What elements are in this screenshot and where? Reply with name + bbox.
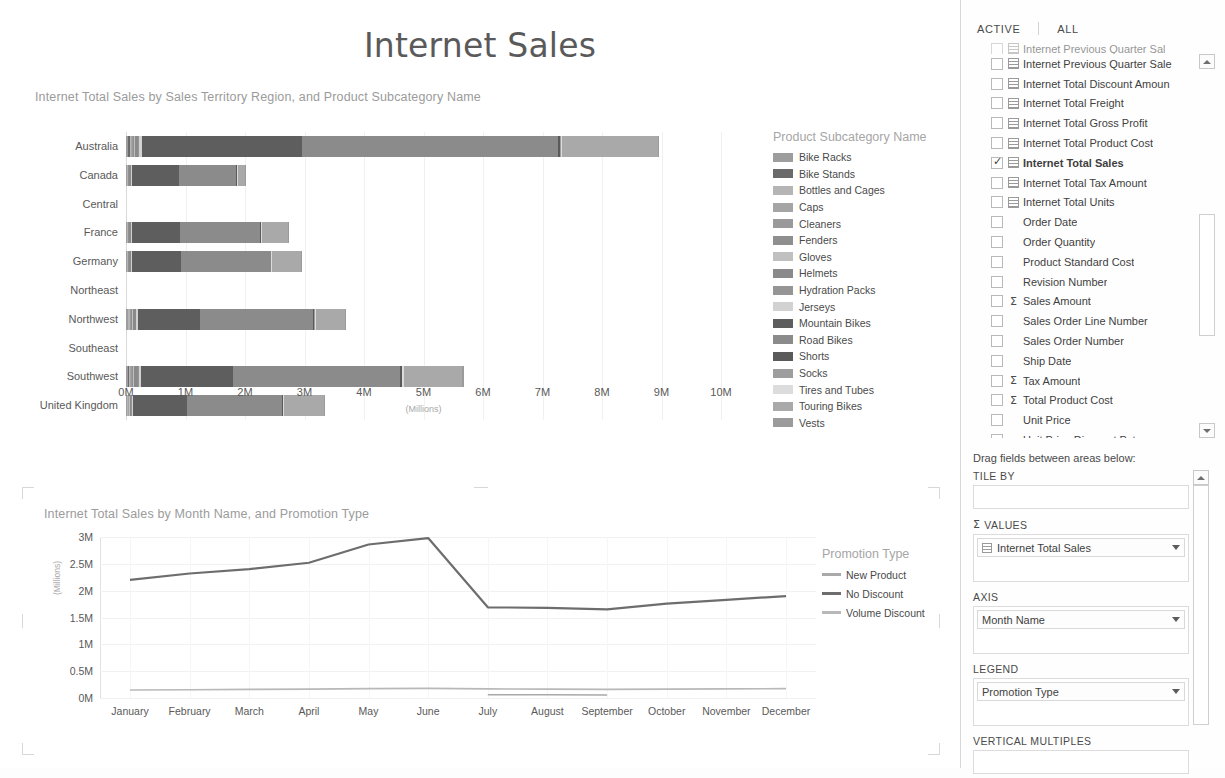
field-list-item[interactable]: Internet Total Discount Amoun bbox=[991, 74, 1196, 94]
field-list-item[interactable]: Internet Previous Quarter Sal bbox=[991, 43, 1196, 54]
line-chart-plot-area[interactable]: 3M2.5M2M1.5M1M0.5M0MJanuaryFebruaryMarch… bbox=[100, 537, 816, 698]
bar-chart-segment[interactable] bbox=[132, 251, 181, 272]
selection-frame-handle-top[interactable] bbox=[474, 487, 488, 488]
bar-chart-segment[interactable] bbox=[272, 251, 301, 272]
legend-item[interactable]: Volume Discount bbox=[822, 603, 940, 622]
scroll-down-arrow-icon[interactable] bbox=[1199, 423, 1215, 438]
checkbox-icon[interactable] bbox=[991, 295, 1003, 307]
legend-item[interactable]: Bike Stands bbox=[773, 166, 953, 183]
chevron-down-icon[interactable] bbox=[1172, 617, 1180, 622]
bar-chart-row[interactable]: Australia bbox=[126, 136, 721, 157]
bar-chart-segment[interactable] bbox=[233, 366, 400, 387]
field-list-item[interactable]: Internet Total Units bbox=[991, 193, 1196, 213]
line-chart-series-path[interactable] bbox=[130, 688, 786, 690]
legend-item[interactable]: Socks bbox=[773, 365, 953, 382]
checkbox-icon[interactable] bbox=[991, 216, 1003, 228]
field-list-item[interactable]: Internet Previous Quarter Sale bbox=[991, 54, 1196, 74]
bar-chart-segment[interactable] bbox=[262, 222, 288, 243]
legend-item[interactable]: Helmets bbox=[773, 265, 953, 282]
bar-chart-segment[interactable] bbox=[179, 165, 236, 186]
bar-chart-row[interactable]: Northeast bbox=[126, 280, 721, 301]
bar-chart-segment[interactable] bbox=[404, 366, 462, 387]
chevron-down-icon[interactable] bbox=[1172, 545, 1180, 550]
bar-chart-segment[interactable] bbox=[658, 136, 659, 157]
legend-item[interactable]: Road Bikes bbox=[773, 332, 953, 349]
legend-item[interactable]: Shorts bbox=[773, 348, 953, 365]
field-list-item[interactable]: Sales Order Number bbox=[991, 331, 1196, 351]
line-chart-legend[interactable]: Promotion Type New ProductNo DiscountVol… bbox=[822, 547, 940, 622]
checkbox-icon[interactable] bbox=[991, 117, 1003, 129]
bar-chart-row[interactable]: France bbox=[126, 222, 721, 243]
bar-chart-segment[interactable] bbox=[180, 222, 260, 243]
field-list[interactable]: Internet Previous Quarter SalInternet Pr… bbox=[991, 43, 1196, 438]
checkbox-icon[interactable] bbox=[991, 335, 1003, 347]
checkbox-icon[interactable] bbox=[991, 58, 1003, 70]
field-pill[interactable]: Promotion Type bbox=[977, 682, 1185, 701]
bar-chart-segment[interactable] bbox=[142, 136, 303, 157]
bar-chart-segment[interactable] bbox=[301, 251, 302, 272]
legend-item[interactable]: Vests bbox=[773, 415, 953, 432]
drop-area-box[interactable]: Month Name bbox=[973, 606, 1189, 654]
bar-chart-row[interactable]: Southeast bbox=[126, 338, 721, 359]
legend-item[interactable]: Gloves bbox=[773, 249, 953, 266]
bar-chart-segment[interactable] bbox=[288, 222, 289, 243]
field-list-item[interactable]: Order Date bbox=[991, 212, 1196, 232]
line-chart-series-path[interactable] bbox=[130, 538, 786, 609]
legend-item[interactable]: Cleaners bbox=[773, 215, 953, 232]
legend-item[interactable]: Touring Bikes bbox=[773, 398, 953, 415]
chevron-down-icon[interactable] bbox=[1172, 689, 1180, 694]
legend-item[interactable]: Fenders bbox=[773, 232, 953, 249]
field-list-item[interactable]: Revision Number bbox=[991, 272, 1196, 292]
checkbox-icon[interactable] bbox=[991, 78, 1003, 90]
bar-chart-segment[interactable] bbox=[302, 136, 558, 157]
field-list-item[interactable]: Internet Total Freight bbox=[991, 94, 1196, 114]
field-list-item[interactable]: Internet Total Sales bbox=[991, 153, 1196, 173]
field-list-item[interactable]: ΣTotal Product Cost bbox=[991, 391, 1196, 411]
tab-active[interactable]: ACTIVE bbox=[973, 23, 1024, 35]
checkbox-icon[interactable] bbox=[991, 97, 1003, 109]
bar-chart-legend-items[interactable]: Bike RacksBike StandsBottles and CagesCa… bbox=[773, 149, 953, 431]
checkbox-icon[interactable] bbox=[991, 43, 1003, 54]
legend-item[interactable]: Bike Racks bbox=[773, 149, 953, 166]
bar-chart-row[interactable]: Central bbox=[126, 194, 721, 215]
bar-chart-segment[interactable] bbox=[181, 251, 270, 272]
checkbox-icon[interactable] bbox=[991, 196, 1003, 208]
bar-chart-segment[interactable] bbox=[238, 165, 246, 186]
field-list-item[interactable]: ΣTax Amount bbox=[991, 371, 1196, 391]
checkbox-icon[interactable] bbox=[991, 137, 1003, 149]
scroll-up-arrow-icon[interactable] bbox=[1199, 54, 1215, 69]
legend-item[interactable]: New Product bbox=[822, 565, 940, 584]
bar-chart-row[interactable]: Canada bbox=[126, 165, 721, 186]
bar-chart-plot-area[interactable]: AustraliaCanadaCentralFranceGermanyNorth… bbox=[126, 132, 721, 420]
areas-scroll-up-arrow-icon[interactable] bbox=[1193, 470, 1209, 485]
field-list-item[interactable]: Internet Total Gross Profit bbox=[991, 113, 1196, 133]
line-chart-legend-items[interactable]: New ProductNo DiscountVolume Discount bbox=[822, 565, 940, 622]
field-list-item[interactable]: Ship Date bbox=[991, 351, 1196, 371]
checkbox-icon[interactable] bbox=[991, 256, 1003, 268]
bar-chart-legend[interactable]: Product Subcategory Name Bike RacksBike … bbox=[773, 130, 953, 431]
drop-area-box[interactable]: Internet Total Sales bbox=[973, 534, 1189, 582]
checkbox-icon[interactable] bbox=[991, 355, 1003, 367]
legend-item[interactable]: Hydration Packs bbox=[773, 282, 953, 299]
tab-all[interactable]: ALL bbox=[1053, 23, 1082, 35]
bar-chart-segment[interactable] bbox=[141, 366, 233, 387]
bar-chart-segment[interactable] bbox=[138, 309, 199, 330]
drop-area-box[interactable] bbox=[973, 750, 1189, 774]
field-list-item[interactable]: Internet Total Tax Amount bbox=[991, 173, 1196, 193]
legend-item[interactable]: Tires and Tubes bbox=[773, 381, 953, 398]
bar-chart-segment[interactable] bbox=[462, 366, 463, 387]
field-list-item[interactable]: Order Quantity bbox=[991, 232, 1196, 252]
field-panel-tabs[interactable]: ACTIVE ALL bbox=[973, 22, 1083, 35]
checkbox-icon[interactable] bbox=[991, 434, 1003, 438]
bar-chart-row[interactable]: Germany bbox=[126, 251, 721, 272]
field-pill[interactable]: Month Name bbox=[977, 610, 1185, 629]
field-list-item[interactable]: ΣSales Amount bbox=[991, 292, 1196, 312]
field-drop-areas[interactable]: TILE BYΣVALUESInternet Total SalesAXISMo… bbox=[973, 470, 1189, 778]
drop-area-box[interactable] bbox=[973, 485, 1189, 509]
legend-item[interactable]: Caps bbox=[773, 199, 953, 216]
checkbox-icon[interactable] bbox=[991, 177, 1003, 189]
checkbox-icon[interactable] bbox=[991, 414, 1003, 426]
field-list-scrollbar[interactable] bbox=[1199, 46, 1217, 438]
checkbox-icon[interactable] bbox=[991, 276, 1003, 288]
field-list-item[interactable]: Internet Total Product Cost bbox=[991, 133, 1196, 153]
